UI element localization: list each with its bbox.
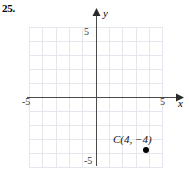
plotted-point-c bbox=[143, 147, 149, 153]
x-axis-label: x bbox=[178, 97, 183, 109]
x-axis-tick-label-negative: -5 bbox=[22, 96, 30, 107]
plotted-point-c-label: C(4, −4) bbox=[113, 133, 152, 145]
y-axis-tick-label-positive: 5 bbox=[84, 26, 89, 37]
coordinate-plane: 5 -5 5 -5 y x C(4, −4) bbox=[0, 0, 189, 175]
x-axis-tick-label-positive: 5 bbox=[160, 96, 165, 107]
y-axis-tick-label-negative: -5 bbox=[84, 155, 92, 166]
axis-lines bbox=[0, 0, 189, 175]
exercise-figure: 25. bbox=[0, 0, 189, 175]
y-axis-label: y bbox=[103, 7, 108, 19]
